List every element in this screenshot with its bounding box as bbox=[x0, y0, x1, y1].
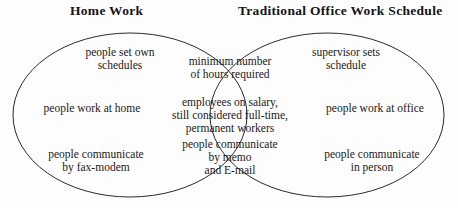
text-line: of hours required bbox=[163, 68, 297, 81]
left-set-heading: Home Work bbox=[70, 3, 143, 19]
text-line: people work at office bbox=[308, 102, 442, 115]
text-line: people communicate bbox=[30, 148, 162, 161]
left-only-item-1: people set own schedules bbox=[64, 46, 176, 72]
text-line: schedules bbox=[64, 59, 176, 72]
text-line: by fax-modem bbox=[30, 161, 162, 174]
intersection-item-2: employees on salary, still considered fu… bbox=[157, 96, 303, 136]
intersection-item-3: people communicate by memo and E-mail bbox=[166, 138, 294, 178]
venn-diagram-page: Home Work Traditional Office Work Schedu… bbox=[0, 0, 458, 208]
right-only-item-1: supervisor sets schedule bbox=[296, 46, 396, 72]
text-line: permanent workers bbox=[157, 122, 303, 135]
text-line: by memo bbox=[166, 151, 294, 164]
text-line: supervisor sets bbox=[296, 46, 396, 59]
text-line: employees on salary, bbox=[157, 96, 303, 109]
text-line: in person bbox=[306, 161, 438, 174]
left-only-item-2: people work at home bbox=[22, 102, 162, 115]
left-only-item-3: people communicate by fax-modem bbox=[30, 148, 162, 174]
text-line: people work at home bbox=[22, 102, 162, 115]
right-only-item-3: people communicate in person bbox=[306, 148, 438, 174]
text-line: people communicate bbox=[166, 138, 294, 151]
text-line: people set own bbox=[64, 46, 176, 59]
text-line: and E-mail bbox=[166, 164, 294, 177]
right-only-item-2: people work at office bbox=[308, 102, 442, 115]
right-set-heading: Traditional Office Work Schedule bbox=[238, 3, 442, 19]
text-line: schedule bbox=[296, 59, 396, 72]
intersection-item-1: minimum number of hours required bbox=[163, 55, 297, 81]
text-line: minimum number bbox=[163, 55, 297, 68]
text-line: people communicate bbox=[306, 148, 438, 161]
text-line: still considered full-time, bbox=[157, 109, 303, 122]
